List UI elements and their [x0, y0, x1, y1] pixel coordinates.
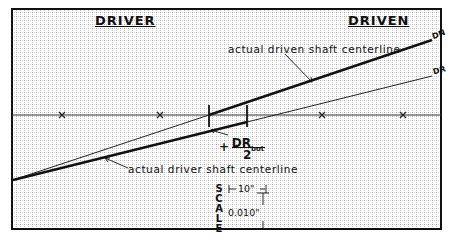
scale-horizontal-value: 10": [238, 183, 254, 194]
graph-grid: [12, 9, 441, 229]
scale-vertical-value: 0.010": [228, 207, 260, 218]
driven-centerline-label: actual driven shaft centerline: [228, 43, 401, 55]
driven-header: DRIVEN: [348, 13, 409, 28]
driver-header: DRIVER: [95, 13, 156, 28]
fraction-denominator: 2: [243, 148, 251, 162]
scale-letter: E: [214, 224, 224, 234]
driver-centerline-label: actual driver shaft centerline: [128, 163, 298, 175]
alignment-diagram: DRIVER DRIVEN actual driven shaft center…: [0, 0, 456, 246]
plus-sign: +: [219, 140, 229, 154]
scale-label: S C A L E: [214, 184, 224, 234]
